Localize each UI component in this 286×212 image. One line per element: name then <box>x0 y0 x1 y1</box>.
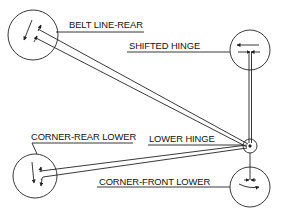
corner-rear-lower-leader <box>32 143 133 154</box>
label-lower-hinge: LOWER HINGE <box>149 134 215 144</box>
label-shifted-hinge: SHIFTED HINGE <box>129 41 200 51</box>
label-belt-line-rear: BELT LINE-REAR <box>69 20 143 30</box>
belt-line-rear-circle <box>8 10 58 60</box>
shifted-hinge-rays <box>249 52 252 143</box>
label-corner-front-lower: CORNER-FRONT LOWER <box>99 177 210 187</box>
shifted-hinge-circle <box>230 30 270 70</box>
label-corner-rear-lower: CORNER-REAR LOWER <box>31 132 136 142</box>
corner-rear-lower-rays <box>41 145 247 180</box>
